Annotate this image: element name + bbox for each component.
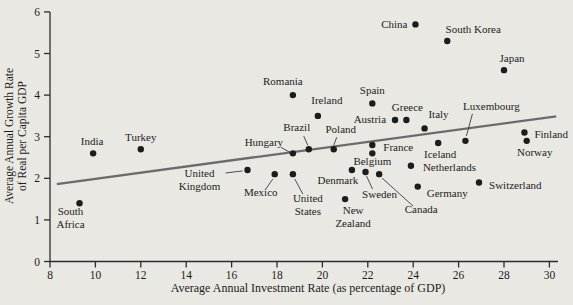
x-tick-label-20: 20 [317, 269, 329, 281]
y-axis-title-line-2: of Real per Capita GDP [16, 81, 29, 191]
point-label-sweden: Sweden [362, 188, 397, 200]
x-tick-label-22: 22 [362, 269, 374, 281]
point-label-romania: Romania [263, 75, 303, 87]
x-tick-label-26: 26 [453, 269, 465, 281]
point-label-italy: Italy [428, 108, 449, 120]
point-label-ireland: Ireland [311, 94, 343, 106]
y-tick-label-2: 2 [34, 172, 40, 184]
data-point-netherlands [408, 163, 414, 169]
leader-line-poland [334, 137, 337, 145]
point-label-austria: Austria [354, 113, 387, 125]
y-axis-title-line-1: Average Annual Growth Rate [3, 68, 16, 204]
axes [44, 12, 558, 268]
data-point-finland [521, 129, 527, 135]
point-label-finland: Finland [534, 128, 568, 140]
point-label-south-africa: SouthAfrica [56, 205, 84, 230]
x-tick-label-12: 12 [135, 269, 147, 281]
x-tick-label-10: 10 [90, 269, 102, 281]
x-tick-label-16: 16 [226, 269, 238, 281]
leader-line-united-kingdom [225, 171, 242, 173]
data-point-austria [392, 117, 398, 123]
data-point-luxembourg [462, 138, 468, 144]
point-label-iceland: Iceland [424, 148, 457, 160]
y-tick-label-3: 3 [34, 131, 40, 143]
point-label-luxembourg: Luxembourg [463, 100, 520, 112]
data-point-india [90, 150, 96, 156]
point-label-china: China [381, 18, 407, 30]
chart-canvas: SouthAfricaIndiaTurkeyUnitedKingdomMexic… [0, 0, 573, 305]
point-label-norway: Norway [517, 146, 553, 158]
x-tick-label-8: 8 [47, 269, 53, 281]
y-tick-label-4: 4 [34, 89, 40, 101]
data-point-hungary [290, 150, 296, 156]
data-point-new-zealand [342, 196, 348, 202]
point-label-south-korea: South Korea [446, 23, 501, 35]
data-point-italy [421, 125, 427, 131]
point-label-hungary: Hungary [245, 136, 284, 148]
data-point-south-korea [444, 38, 450, 44]
data-point-poland [331, 146, 337, 152]
point-label-india: India [81, 135, 104, 147]
data-point-iceland [435, 140, 441, 146]
data-points [76, 21, 530, 206]
y-tick-label-0: 0 [34, 256, 40, 268]
x-tick-label-18: 18 [271, 269, 283, 281]
point-label-japan: Japan [499, 52, 525, 64]
point-label-new-zealand: NewZealand [335, 204, 371, 229]
point-label-poland: Poland [325, 123, 356, 135]
data-point-ireland [315, 113, 321, 119]
x-axis-title: Average Annual Investment Rate (as perce… [171, 281, 446, 295]
data-point-spain [369, 100, 375, 106]
point-label-united-kingdom: UnitedKingdom [179, 167, 221, 192]
data-point-germany [415, 183, 421, 189]
point-label-spain: Spain [360, 84, 386, 96]
point-label-germany: Germany [427, 187, 468, 199]
data-point-turkey [138, 146, 144, 152]
data-point-brazil [306, 146, 312, 152]
tick-labels: 012345681012141618202224262830 [34, 6, 555, 281]
point-label-turkey: Turkey [125, 131, 157, 143]
x-tick-label-24: 24 [407, 269, 419, 281]
point-label-netherlands: Netherlands [423, 161, 476, 173]
data-point-sweden [362, 169, 368, 175]
data-point-greece [403, 117, 409, 123]
leader-line-brazil [304, 136, 308, 145]
data-point-china [412, 21, 418, 27]
data-point-france [369, 142, 375, 148]
data-point-united-kingdom [244, 167, 250, 173]
data-point-norway [524, 138, 530, 144]
point-label-france: France [383, 141, 413, 153]
point-label-denmark: Denmark [317, 174, 358, 186]
point-label-mexico: Mexico [244, 186, 278, 198]
point-label-brazil: Brazil [283, 121, 310, 133]
y-tick-label-6: 6 [34, 6, 40, 18]
point-label-canada: Canada [405, 203, 438, 215]
data-point-mexico [272, 171, 278, 177]
y-tick-label-5: 5 [34, 48, 40, 60]
leader-line-luxembourg [466, 114, 472, 136]
x-tick-label-30: 30 [544, 269, 556, 281]
scatter-plot-figure: SouthAfricaIndiaTurkeyUnitedKingdomMexic… [0, 0, 573, 305]
data-point-switzerland [476, 179, 482, 185]
y-tick-label-1: 1 [34, 214, 40, 226]
data-point-denmark [349, 167, 355, 173]
data-point-united-states [290, 171, 296, 177]
point-label-greece: Greece [392, 101, 423, 113]
point-label-switzerland: Switzerland [489, 179, 542, 191]
data-point-romania [290, 92, 296, 98]
data-point-japan [501, 67, 507, 73]
data-point-canada [376, 171, 382, 177]
x-tick-label-14: 14 [180, 269, 192, 281]
point-label-belgium: Belgium [353, 155, 391, 167]
point-label-united-states: UnitedStates [293, 192, 323, 217]
x-tick-label-28: 28 [498, 269, 510, 281]
